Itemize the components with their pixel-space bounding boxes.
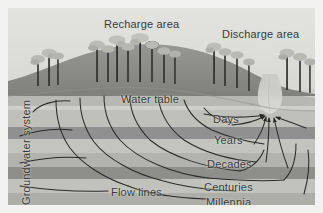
tree-canopy [231,51,244,59]
aquifer-band-2 [8,139,315,153]
tree-canopy [145,41,159,49]
tree-trunk [127,48,129,82]
tree-trunk [224,53,226,86]
tree-canopy [169,51,181,58]
tree-trunk [107,50,109,82]
tree-trunk [57,57,59,85]
aquitard-band-2 [8,167,315,179]
tree-canopy [158,47,171,55]
cross-section-svg [8,8,315,205]
diagram-canvas: Recharge area Discharge area Water table… [8,8,315,205]
tree-canopy [52,52,64,59]
tree-trunk [163,52,165,83]
tree-trunk [236,56,238,88]
tree-trunk [213,48,215,84]
tree-canopy [88,45,98,51]
tree-canopy [102,45,115,53]
tree-trunk [151,46,153,82]
tree-canopy [130,39,140,45]
tree-trunk [116,41,118,82]
groundwater-diagram-figure: Recharge area Discharge area Water table… [0,0,323,213]
tree-trunk [174,55,176,84]
tree-trunk [299,58,301,92]
tree-trunk [309,63,311,93]
tree-canopy [219,48,232,56]
tree-trunk [96,46,98,82]
tree-canopy [279,54,288,60]
tree-trunk [248,63,250,91]
tree-canopy [31,59,40,65]
aquifer-band-3 [8,153,315,167]
tree-canopy [243,59,255,66]
tree-canopy [206,47,215,53]
tree-trunk [139,39,141,82]
tree-trunk [286,54,288,90]
tree-trunk [48,54,50,86]
tree-canopy [293,53,307,61]
